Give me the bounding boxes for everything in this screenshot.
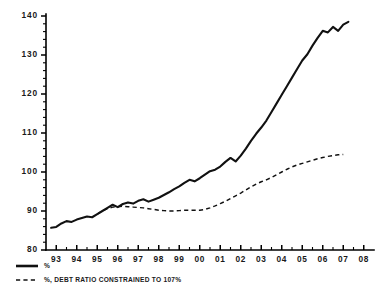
- chart-legend: %%, DEBT RATIO CONSTRAINED TO 107%: [16, 262, 181, 284]
- legend-label: %: [44, 262, 50, 269]
- x-axis-tick-label: 01: [215, 254, 225, 264]
- y-axis-tick-label: 120: [21, 88, 38, 98]
- series-line-percent: [51, 22, 348, 228]
- series-line-constrained: [97, 154, 343, 214]
- x-axis: 93949596979899000102030405060708: [46, 245, 374, 264]
- x-axis-tick-label: 00: [195, 254, 205, 264]
- legend-label: %, DEBT RATIO CONSTRAINED TO 107%: [44, 276, 181, 284]
- chart-container: 8090100110120130140 93949596979899000102…: [0, 0, 387, 294]
- y-axis-tick-label: 140: [21, 10, 38, 20]
- line-chart: 8090100110120130140 93949596979899000102…: [0, 0, 387, 294]
- y-axis-tick-label: 90: [27, 205, 38, 215]
- x-axis-tick-label: 96: [113, 254, 123, 264]
- x-axis-tick-label: 03: [256, 254, 266, 264]
- x-axis-tick-label: 05: [297, 254, 307, 264]
- y-axis-tick-label: 80: [27, 244, 38, 254]
- x-axis-tick-label: 04: [277, 254, 287, 264]
- x-axis-tick-label: 97: [133, 254, 143, 264]
- x-axis-tick-label: 93: [51, 254, 61, 264]
- x-axis-tick-label: 98: [154, 254, 164, 264]
- x-axis-tick-label: 99: [174, 254, 184, 264]
- x-axis-tick-label: 95: [92, 254, 102, 264]
- y-axis-tick-label: 110: [22, 127, 38, 137]
- y-axis-tick-label: 100: [21, 166, 38, 176]
- data-series-group: [51, 22, 348, 228]
- x-axis-tick-label: 08: [359, 254, 369, 264]
- x-axis-tick-label: 94: [72, 254, 82, 264]
- y-axis: 8090100110120130140: [21, 10, 46, 254]
- y-axis-tick-label: 130: [21, 49, 38, 59]
- x-axis-tick-label: 07: [338, 254, 348, 264]
- x-axis-tick-label: 06: [318, 254, 328, 264]
- x-axis-tick-label: 02: [236, 254, 246, 264]
